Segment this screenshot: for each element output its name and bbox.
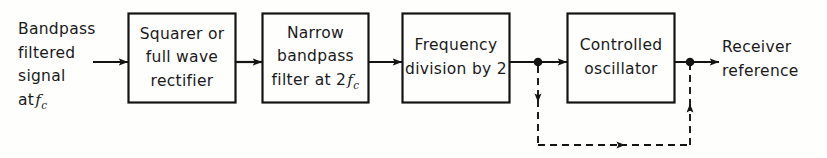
input-label-line-1: Bandpass <box>18 18 96 42</box>
input-signal-label: Bandpass filtered signal atfc <box>18 18 96 114</box>
block-diagram: Bandpass filtered signal atfc Squarer or… <box>0 0 827 158</box>
box-squarer-rectifier <box>129 14 236 103</box>
output-label-line-2: reference <box>722 60 799 84</box>
input-label-subscript: c <box>41 99 47 111</box>
output-label-line-1: Receiver <box>722 36 799 60</box>
input-label-line-4: atfc <box>18 89 96 114</box>
box-frequency-division <box>403 14 510 103</box>
junction-dot-divider-output <box>534 58 543 67</box>
box-controlled-oscillator <box>568 14 675 103</box>
diagram-canvas <box>0 0 827 158</box>
junction-dot-oscillator-output <box>686 58 695 67</box>
output-reference-label: Receiver reference <box>722 36 799 83</box>
input-label-line-2: filtered <box>18 42 96 66</box>
input-label-at: at <box>18 91 34 109</box>
box-narrow-bandpass-filter <box>263 14 369 103</box>
input-label-line-3: signal <box>18 65 96 89</box>
